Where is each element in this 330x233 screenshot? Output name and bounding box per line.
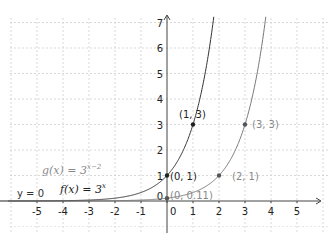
point-label-f0: (0, 1) bbox=[170, 171, 197, 182]
y-tick-label: 7 bbox=[157, 18, 163, 29]
x-tick-label: -5 bbox=[32, 206, 42, 217]
x-tick-label: 5 bbox=[294, 206, 300, 217]
x-tick-label: 0 bbox=[170, 206, 176, 217]
point-label-f1: (1, 3) bbox=[179, 109, 206, 120]
x-tick-label: 4 bbox=[268, 206, 274, 217]
y-tick-label: 4 bbox=[157, 94, 163, 105]
data-point bbox=[217, 173, 221, 177]
curve-g bbox=[0, 17, 266, 201]
point-label-g2: (2, 1) bbox=[232, 171, 259, 182]
y-tick-label: 5 bbox=[157, 69, 163, 80]
data-point bbox=[191, 122, 195, 126]
legend-g-exp: x−2 bbox=[87, 163, 102, 171]
data-point bbox=[165, 173, 169, 177]
x-tick-label: -2 bbox=[110, 206, 120, 217]
asymptote-label: y = 0 bbox=[17, 188, 44, 199]
y-tick-label: 3 bbox=[157, 120, 163, 131]
function-graph: -5-4-3-2-101234501234567 y = 0 g(x) = 3x… bbox=[0, 0, 330, 233]
x-tick-label: 1 bbox=[190, 206, 196, 217]
legend-g: g(x) = 3x−2 bbox=[42, 163, 102, 177]
x-tick-label: -3 bbox=[84, 206, 94, 217]
curves bbox=[0, 17, 266, 201]
y-tick-label: 0 bbox=[157, 191, 163, 202]
x-tick-label: -1 bbox=[136, 206, 146, 217]
data-point bbox=[165, 196, 169, 200]
legend-f: f(x) = 3x bbox=[59, 182, 106, 196]
legend-f-main: f(x) = 3 bbox=[59, 183, 102, 196]
x-tick-label: 2 bbox=[216, 206, 222, 217]
x-tick-label: 3 bbox=[242, 206, 248, 217]
y-tick-label: 2 bbox=[157, 145, 163, 156]
legend-f-exp: x bbox=[102, 182, 106, 190]
point-label-g0: (0, 0.11) bbox=[170, 190, 213, 201]
data-point bbox=[243, 122, 247, 126]
x-tick-label: -4 bbox=[58, 206, 68, 217]
y-tick-label: 6 bbox=[157, 43, 163, 54]
legend-g-main: g(x) = 3 bbox=[42, 164, 87, 177]
point-label-g3: (3, 3) bbox=[252, 119, 279, 130]
